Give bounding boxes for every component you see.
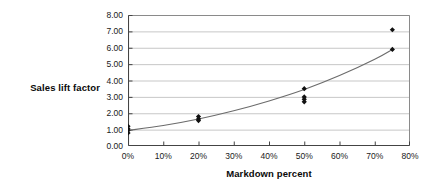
sales-lift-scatter-chart: Sales lift factor 0.001.002.003.004.005.… xyxy=(0,0,440,190)
x-tick-label: 10% xyxy=(155,151,172,161)
y-tick-label: 1.00 xyxy=(106,125,123,135)
gridlines xyxy=(128,16,410,131)
x-tick-label: 60% xyxy=(331,151,348,161)
x-tick-label: 70% xyxy=(366,151,383,161)
y-tick-label: 2.00 xyxy=(106,108,123,118)
trendline-group xyxy=(128,49,392,130)
y-tick-label: 7.00 xyxy=(106,26,123,36)
y-tick-label: 6.00 xyxy=(106,43,123,53)
x-tick-label: 50% xyxy=(296,151,313,161)
x-tick-label: 40% xyxy=(260,151,277,161)
data-point-marker xyxy=(390,47,395,52)
x-tick-label: 0% xyxy=(122,151,134,161)
x-axis-title: Markdown percent xyxy=(128,168,410,179)
y-tick-label: 3.00 xyxy=(106,92,123,102)
y-tick-label: 8.00 xyxy=(106,10,123,20)
x-tick-label: 80% xyxy=(401,151,418,161)
y-tick-label: 4.00 xyxy=(106,76,123,86)
x-tick-label: 20% xyxy=(190,151,207,161)
y-tick-label: 0.00 xyxy=(106,141,123,151)
plot-frame xyxy=(129,16,410,146)
y-axis-title: Sales lift factor xyxy=(8,82,100,93)
y-tick-label: 5.00 xyxy=(106,59,123,69)
plot-canvas xyxy=(128,15,410,146)
trendline xyxy=(128,49,392,130)
plot-area: 0.001.002.003.004.005.006.007.008.00 0%1… xyxy=(128,15,410,146)
x-tick-label: 30% xyxy=(225,151,242,161)
